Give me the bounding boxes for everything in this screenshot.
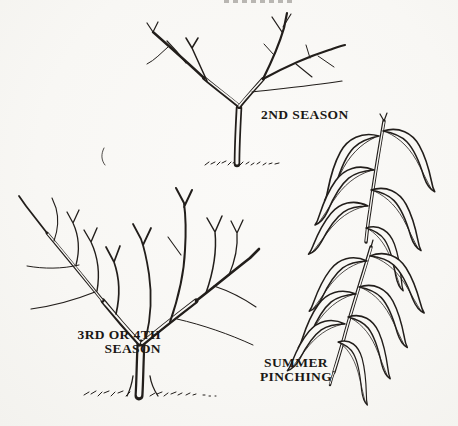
summer-pinching-label-line1: SUMMER (250, 356, 342, 370)
pruning-illustration-canvas (0, 0, 458, 426)
third-or-fourth-season-tree-drawing (19, 188, 259, 396)
second-season-tree-drawing (102, 13, 345, 165)
summer-pinching-label: SUMMER PINCHING (250, 356, 342, 384)
third-or-fourth-season-label-line1: 3RD OR 4TH (40, 328, 161, 342)
summer-pinching-label-line2: PINCHING (250, 370, 342, 384)
ground-line (205, 161, 279, 165)
second-season-label-text: 2ND SEASON (261, 108, 349, 122)
third-or-fourth-season-label-line2: SEASON (40, 342, 161, 356)
second-season-label: 2ND SEASON (261, 108, 349, 122)
ground-line (84, 391, 216, 396)
book-page: 2ND SEASON 3RD OR 4TH SEASON SUMMER PINC… (0, 0, 458, 426)
third-or-fourth-season-label: 3RD OR 4TH SEASON (40, 328, 161, 356)
